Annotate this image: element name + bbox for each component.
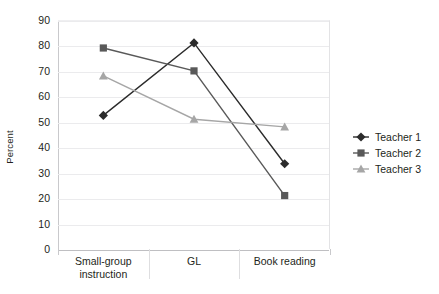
x-tick-label-line: instruction	[75, 268, 132, 281]
legend-label: Teacher 2	[374, 148, 421, 159]
line-chart: Percent 0102030405060708090 Small-groupi…	[0, 0, 439, 294]
data-point-marker	[190, 67, 197, 74]
square-marker-icon	[352, 145, 374, 161]
legend-item-2[interactable]: Teacher 2	[352, 145, 438, 161]
data-point-marker	[99, 72, 108, 80]
series-1	[99, 38, 290, 168]
data-point-marker	[100, 44, 107, 51]
series-3	[99, 72, 289, 131]
x-tick-label-line: Small-group	[75, 255, 132, 268]
legend-item-3[interactable]: Teacher 3	[352, 161, 438, 177]
x-tick-label: Book reading	[254, 255, 316, 268]
legend: Teacher 1Teacher 2Teacher 3	[352, 129, 438, 177]
legend-label: Teacher 3	[374, 164, 421, 175]
data-point-marker	[281, 192, 288, 199]
x-tick-label: GL	[187, 255, 201, 268]
triangle-marker-icon	[352, 161, 374, 177]
legend-label: Teacher 1	[374, 132, 421, 143]
x-tick-label: Small-groupinstruction	[75, 255, 132, 281]
legend-item-1[interactable]: Teacher 1	[352, 129, 438, 145]
x-axis-tick-labels: Small-groupinstructionGLBook reading	[58, 255, 330, 291]
diamond-marker-icon	[352, 129, 374, 145]
series-line	[103, 43, 284, 164]
x-tick-label-line: Book reading	[254, 255, 316, 268]
x-tick-label-line: GL	[187, 255, 201, 268]
